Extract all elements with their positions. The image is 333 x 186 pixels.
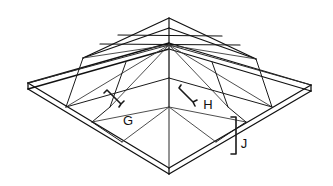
hip-roof-diagram: G H J <box>0 0 333 186</box>
lower-rafter-right-mid <box>169 107 216 142</box>
callout-g-bracket <box>104 90 124 107</box>
purlin-upper-right-b <box>212 62 228 107</box>
radial-rafter-right-inner <box>169 45 228 107</box>
course-right-tie <box>228 107 246 122</box>
course-left-tie <box>92 107 110 122</box>
callout-h-label: H <box>203 97 212 112</box>
roof-isometric-svg: G H J <box>0 0 333 186</box>
fascia-outer-right-lower <box>169 91 311 174</box>
fascia-outer-upperright-lower <box>169 49 311 91</box>
purlin-upper-right-a <box>256 59 272 107</box>
ridge-left-inner <box>83 28 169 58</box>
fascia-outer-left-lower <box>28 89 169 174</box>
course-left-plane-lower <box>92 122 122 142</box>
course-left-plane-upper <box>66 78 169 107</box>
callout-h-bracket <box>179 85 197 106</box>
callout-g-label: G <box>123 113 133 128</box>
purlin-upper-left-a <box>66 58 83 107</box>
eave-left-lower <box>28 83 169 168</box>
fascia-outer-upperleft-lower <box>28 49 169 89</box>
radial-rafter-left-outer <box>66 45 169 107</box>
callout-j-bracket <box>231 117 236 154</box>
radial-rafter-right-mid <box>169 45 272 107</box>
ridge-right-inner <box>169 28 256 59</box>
radial-rafter-left-mid <box>110 45 169 107</box>
callout-j-label: J <box>241 136 248 151</box>
